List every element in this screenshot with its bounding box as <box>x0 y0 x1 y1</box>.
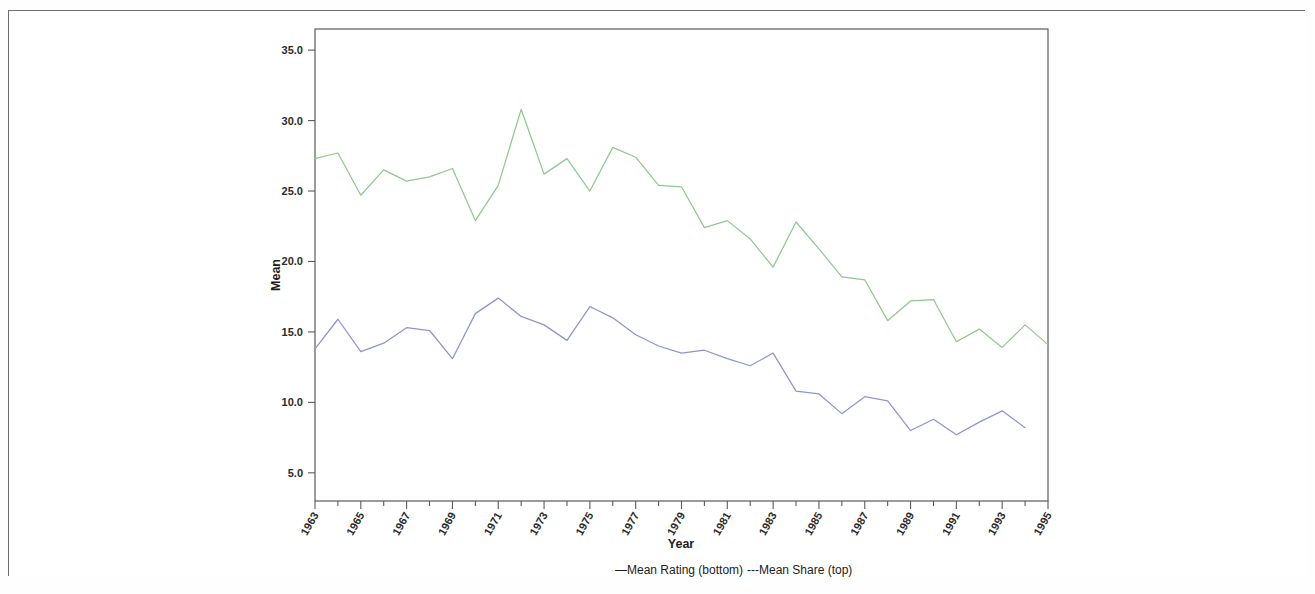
document-page: 5.010.015.020.025.030.035.0 196319651967… <box>0 0 1315 594</box>
y-tick-label: 30.0 <box>282 115 303 127</box>
y-tick-label: 15.0 <box>282 326 303 338</box>
y-axis-title: Mean <box>269 259 283 291</box>
y-tick-label: 25.0 <box>282 185 303 197</box>
chart-legend: —Mean Rating (bottom)---Mean Share (top) <box>615 563 852 577</box>
y-tick-label: 35.0 <box>282 44 303 56</box>
x-axis-title: Year <box>668 537 695 551</box>
scanned-page-frame: 5.010.015.020.025.030.035.0 196319651967… <box>8 10 1305 576</box>
y-tick-label: 10.0 <box>282 396 303 408</box>
line-chart-figure: 5.010.015.020.025.030.035.0 196319651967… <box>9 11 1306 577</box>
y-tick-label: 5.0 <box>288 467 303 479</box>
chart-background <box>9 11 1306 577</box>
y-tick-label: 20.0 <box>282 255 303 267</box>
legend-entry-1: ---Mean Share (top) <box>747 563 852 577</box>
legend-entry-0: —Mean Rating (bottom) <box>615 563 743 577</box>
chart-canvas: 5.010.015.020.025.030.035.0 196319651967… <box>9 11 1306 577</box>
